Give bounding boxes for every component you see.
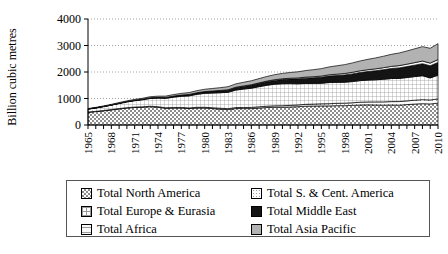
y-tick-label: 2000 [57,65,81,79]
x-tick-label: 2001 [362,132,374,154]
x-tick-label: 1974 [152,132,164,155]
legend-label: Total Asia Pacific [267,223,356,236]
x-tick-label: 1980 [199,132,211,155]
legend-label: Total Middle East [267,205,356,218]
x-tick-label: 1986 [245,132,257,155]
x-tick-label: 1983 [222,132,234,155]
x-tick-label: 1965 [82,132,94,155]
mid-grey-swatch [251,224,262,235]
chart-container: 01000200030004000 1965196819711974197719… [0,0,448,254]
x-tick-label: 1998 [339,132,351,155]
x-tick-label: 1971 [129,132,141,154]
x-tick-label: 2007 [409,132,421,155]
y-tick-label: 0 [75,118,81,132]
x-tick-label: 1977 [175,132,187,155]
x-tick-label: 1992 [292,132,304,154]
x-axis-ticks: 1965196819711974197719801983198619891992… [82,125,444,154]
dense-check-swatch [81,188,92,199]
x-tick-label: 2010 [432,132,444,155]
grid-lines-swatch [81,206,92,217]
legend-item[interactable]: Total Middle East [251,205,429,218]
stacked-area-chart: 01000200030004000 1965196819711974197719… [0,0,448,180]
sparse-dot-swatch [251,188,262,199]
legend-item[interactable]: Total North America [81,187,251,200]
legend-item[interactable]: Total Europe & Eurasia [81,205,251,218]
series-areas [88,44,438,125]
legend-item[interactable]: Total Asia Pacific [251,223,429,236]
x-tick-label: 2004 [385,132,397,155]
thin-line-swatch [81,224,92,235]
legend-item[interactable]: Total S. & Cent. America [251,187,429,200]
x-tick-label: 1968 [105,132,117,155]
x-tick-label: 1995 [315,132,327,155]
legend-label: Total Europe & Eurasia [97,205,215,218]
y-tick-label: 4000 [57,12,81,26]
x-tick-label: 1989 [269,132,281,155]
legend-label: Total Africa [97,223,157,236]
solid-black-swatch [251,206,262,217]
legend-label: Total North America [97,187,200,200]
y-axis-ticks: 01000200030004000 [57,12,88,132]
y-tick-label: 1000 [57,92,81,106]
legend-label: Total S. & Cent. America [267,187,394,200]
chart-legend: Total North AmericaTotal S. & Cent. Amer… [66,180,430,237]
legend-item[interactable]: Total Africa [81,223,251,236]
y-tick-label: 3000 [57,39,81,53]
y-axis-title: Billion cubic metres [5,28,19,126]
